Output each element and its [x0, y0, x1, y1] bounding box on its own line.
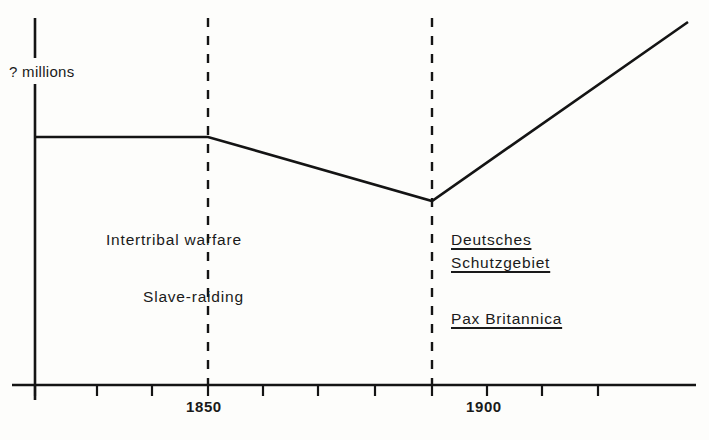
- x-tick-label-1850: 1850: [186, 398, 222, 415]
- chart-figure: ? millions 1850 1900 Intertribal warfare…: [0, 0, 709, 440]
- annotation-schutzgebiet: Schutzgebiet: [451, 254, 550, 272]
- x-tick-label-1900: 1900: [466, 398, 502, 415]
- annotation-slave-raiding: Slave-raiding: [143, 288, 244, 306]
- x-axis-ticks: [35, 385, 598, 396]
- y-axis-label: ? millions: [9, 63, 75, 80]
- annotation-deutsches: Deutsches: [451, 231, 531, 249]
- annotation-pax-britannica: Pax Britannica: [451, 310, 562, 328]
- chart-canvas: [0, 0, 709, 440]
- population-line: [35, 22, 688, 201]
- annotation-intertribal-warfare: Intertribal warfare: [106, 231, 242, 249]
